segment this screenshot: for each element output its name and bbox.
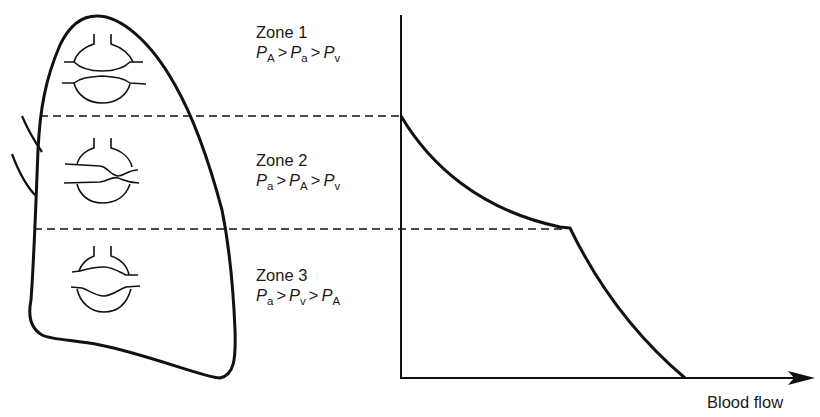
term-subscript: A: [267, 52, 275, 64]
term-symbol: P: [289, 286, 300, 304]
zone1-label: Zone 1 PA>Pa>Pv: [256, 22, 340, 68]
zones-diagram: [0, 0, 820, 417]
operator: >: [275, 43, 291, 61]
zone3-label: Zone 3 Pa>Pv>PA: [256, 265, 340, 311]
zone3-title: Zone 3: [256, 265, 340, 285]
term-subscript: A: [300, 180, 308, 192]
zone3-pressure-relation: Pa>Pv>PA: [256, 285, 340, 311]
x-axis-label: Blood flow: [707, 393, 783, 412]
operator: >: [308, 43, 324, 61]
term-symbol: P: [256, 286, 267, 304]
term-symbol: P: [256, 171, 267, 189]
hilum-stroke-lower: [12, 154, 36, 196]
blood-flow-curve: [401, 116, 685, 378]
term-subscript: a: [301, 52, 307, 64]
term-subscript: A: [332, 295, 340, 307]
term-symbol: P: [256, 43, 267, 61]
term-symbol: P: [323, 43, 334, 61]
term-subscript: v: [334, 52, 340, 64]
term-symbol: P: [323, 171, 334, 189]
term-subscript: v: [334, 180, 340, 192]
zone1-vessel-icon: [62, 34, 146, 103]
zone1-title: Zone 1: [256, 22, 340, 42]
operator: >: [308, 171, 324, 189]
term-subscript: v: [300, 295, 306, 307]
zone2-label: Zone 2 Pa>PA>Pv: [256, 150, 340, 196]
term-symbol: P: [290, 43, 301, 61]
operator: >: [306, 286, 322, 304]
zone2-vessel-icon: [64, 138, 139, 203]
operator: >: [273, 171, 289, 189]
term-symbol: P: [289, 171, 300, 189]
zone3-vessel-icon: [71, 246, 140, 312]
operator: >: [273, 286, 289, 304]
zone1-pressure-relation: PA>Pa>Pv: [256, 42, 340, 68]
lung-outline: [30, 16, 235, 378]
zone2-title: Zone 2: [256, 150, 340, 170]
term-symbol: P: [321, 286, 332, 304]
zone2-pressure-relation: Pa>PA>Pv: [256, 170, 340, 196]
